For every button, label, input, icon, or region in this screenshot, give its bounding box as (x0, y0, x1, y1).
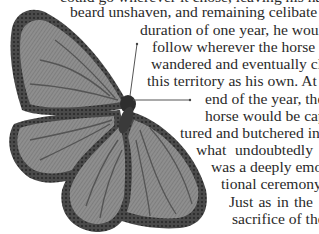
text-line-5: this territory as his own. At the (147, 72, 313, 89)
text-line-1: beard unshaven, and remaining celibate f… (70, 3, 313, 20)
text-line-6: end of the year, the (205, 90, 313, 107)
text-line-8: tured and butchered in (180, 124, 313, 141)
text-line-10: was a deeply emo- (211, 158, 313, 175)
text-line-2: duration of one year, he would (140, 21, 313, 38)
antenna-left (130, 44, 137, 96)
text-line-3: follow wherever the horse (152, 38, 313, 55)
text-line-4: wandered and eventually claim (151, 55, 313, 72)
forewing-left (10, 10, 128, 115)
text-line-12: Just as in the (229, 193, 313, 210)
book-page: could go wherever it chose, leaving his … (0, 0, 319, 234)
text-line-9: what undoubtedly (196, 141, 313, 158)
text-line-13: sacrifice of the (232, 210, 313, 227)
text-line-11: tional ceremony. (221, 175, 313, 192)
text-line-7: horse would be cap- (205, 107, 313, 124)
